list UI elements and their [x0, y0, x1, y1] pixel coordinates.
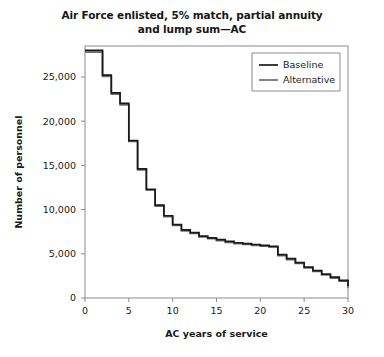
x-tick-label: 0: [82, 305, 88, 316]
x-tick-label: 25: [298, 305, 310, 316]
y-axis-tick-marks: [81, 77, 85, 298]
y-tick-label: 25,000: [43, 71, 76, 82]
legend-label-alternative: Alternative: [283, 74, 335, 85]
chart-figure: Air Force enlisted, 5% match, partial an…: [0, 0, 384, 357]
x-tick-label: 15: [210, 305, 222, 316]
y-tick-label: 10,000: [43, 204, 76, 215]
x-tick-label: 30: [342, 305, 354, 316]
y-tick-label: 5,000: [49, 248, 76, 259]
x-tick-label: 10: [167, 305, 179, 316]
chart-legend: BaselineAlternative: [252, 53, 340, 91]
x-axis-title: AC years of service: [165, 328, 268, 339]
chart-title-line-2: and lump sum—AC: [0, 22, 384, 36]
chart-title-line-1: Air Force enlisted, 5% match, partial an…: [0, 8, 384, 22]
y-axis-title: Number of personnel: [13, 115, 24, 228]
y-tick-label: 15,000: [43, 160, 76, 171]
y-tick-label: 20,000: [43, 116, 76, 127]
chart-plot-area: 05,00010,00015,00020,00025,000 051015202…: [0, 0, 384, 357]
x-tick-label: 5: [126, 305, 132, 316]
legend-label-baseline: Baseline: [283, 59, 323, 70]
x-axis-tick-marks: [85, 298, 348, 302]
chart-title: Air Force enlisted, 5% match, partial an…: [0, 8, 384, 36]
x-axis-tick-labels: 051015202530: [82, 305, 354, 316]
y-axis-tick-labels: 05,00010,00015,00020,00025,000: [43, 71, 76, 303]
y-tick-label: 0: [70, 292, 76, 303]
x-tick-label: 20: [254, 305, 266, 316]
